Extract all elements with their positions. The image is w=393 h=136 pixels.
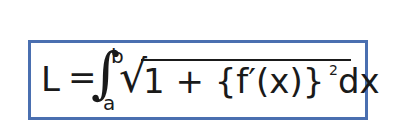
lhs-variable: L: [41, 62, 60, 96]
lower-limit: a: [103, 93, 115, 113]
arc-length-formula: L = ∫ b a √ 1 + {f′(x)} 2 dx: [31, 43, 365, 117]
exponent: 2: [329, 63, 338, 77]
radicand: 1 + {f′(x)}: [143, 64, 324, 98]
formula-box: L = ∫ b a √ 1 + {f′(x)} 2 dx: [28, 40, 368, 120]
differential: dx: [338, 64, 380, 98]
